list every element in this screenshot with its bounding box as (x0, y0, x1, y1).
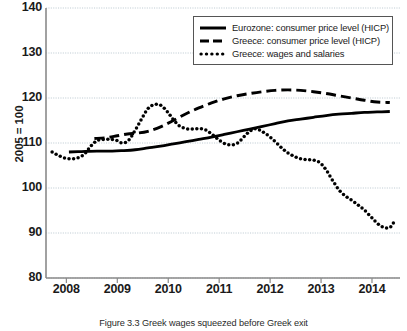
legend-item-greece-wages[interactable]: Greece: wages and salaries (199, 47, 387, 60)
legend-item-eurozone-hicp[interactable]: Eurozone: consumer price level (HICP) (199, 21, 387, 34)
x-tick-label-2010: 2010 (146, 282, 190, 296)
data-series-layer (50, 90, 395, 230)
legend-label-greece-wages: Greece: wages and salaries (232, 48, 344, 59)
x-tick-label-2012: 2012 (248, 282, 292, 296)
legend-key-dashed-icon (199, 35, 227, 47)
x-axis-tick-labels: 2008200920102011201220132014 (0, 282, 407, 302)
legend-label-eurozone-hicp: Eurozone: consumer price level (HICP) (232, 22, 389, 33)
chart-legend: Eurozone: consumer price level (HICP) Gr… (193, 16, 393, 65)
x-tick-label-2014: 2014 (350, 282, 394, 296)
x-tick-label-2008: 2008 (44, 282, 88, 296)
legend-item-greece-hicp[interactable]: Greece: consumer price level (HICP) (199, 34, 387, 47)
figure-caption: Figure 3.3 Greek wages squeezed before G… (0, 318, 407, 328)
legend-key-dotted-icon (199, 48, 227, 60)
x-tick-label-2013: 2013 (299, 282, 343, 296)
x-tick-label-2011: 2011 (197, 282, 241, 296)
series-line-2 (50, 103, 395, 230)
legend-key-solid-icon (199, 22, 227, 34)
x-tick-label-2009: 2009 (95, 282, 139, 296)
legend-label-greece-hicp: Greece: consumer price level (HICP) (232, 35, 380, 46)
figure-chart: 2005 = 100 8090100110120130140 200820092… (0, 0, 407, 331)
